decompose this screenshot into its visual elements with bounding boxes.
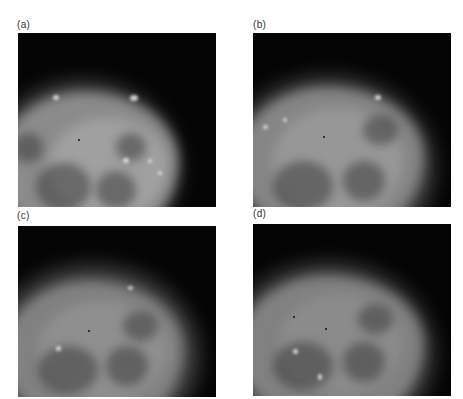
panel-c-label: (c): [17, 210, 30, 221]
panel-a-label: (a): [17, 19, 30, 30]
panel-d-label: (d): [253, 208, 266, 219]
panel-c-micrograph: [18, 226, 216, 397]
panel-b-label: (b): [253, 19, 266, 30]
panel-b-micrograph: [253, 33, 451, 207]
panel-d-micrograph: [253, 224, 451, 396]
panel-a-micrograph: [18, 33, 216, 207]
